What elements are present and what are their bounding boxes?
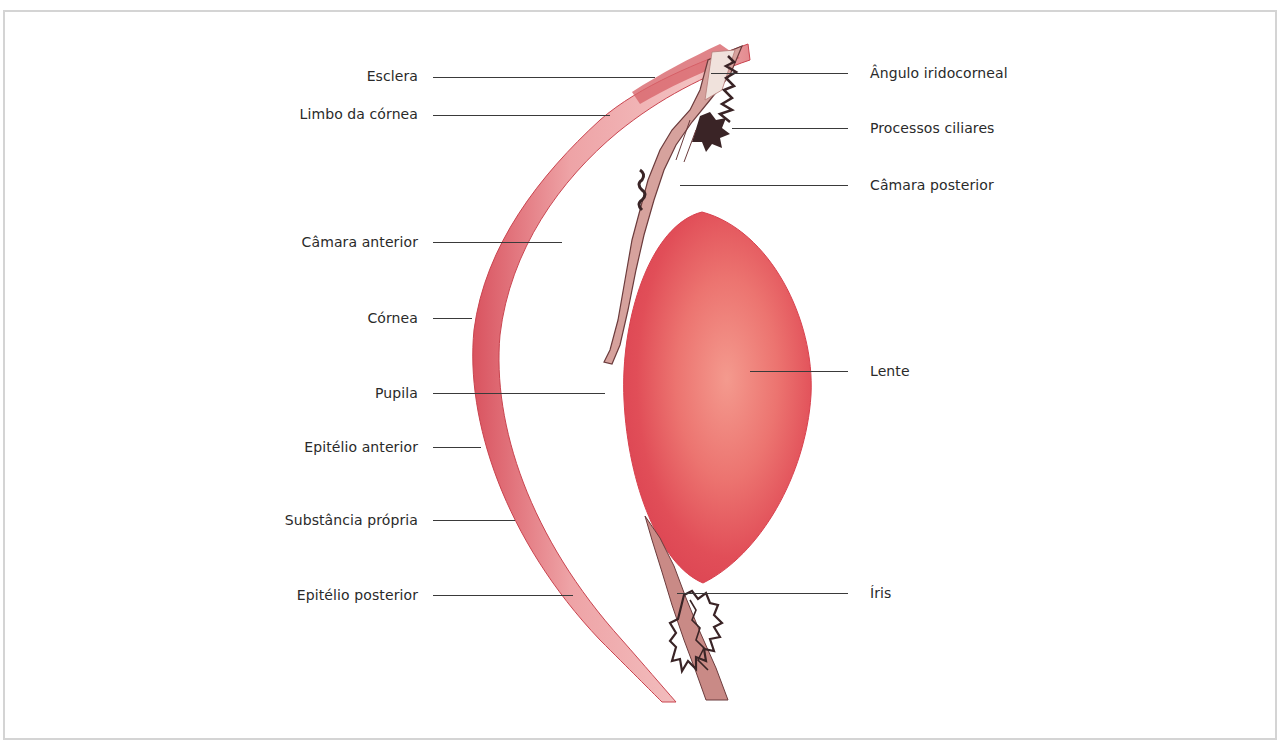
leader-iris: [677, 593, 848, 594]
leader-lente: [750, 371, 848, 372]
leader-epitelio-posterior: [433, 595, 573, 596]
leader-esclera: [433, 77, 655, 78]
label-substancia-propria: Substância própria: [168, 511, 418, 529]
label-pupila: Pupila: [168, 384, 418, 402]
label-camara-anterior: Câmara anterior: [168, 233, 418, 251]
leader-camara-anterior: [433, 242, 562, 243]
leader-limbo-da-cornea: [433, 115, 610, 116]
leader-substancia-propria: [433, 520, 515, 521]
leader-cornea: [433, 318, 472, 319]
label-esclera: Esclera: [168, 67, 418, 85]
label-iris: Íris: [870, 584, 891, 602]
leader-camara-posterior: [680, 185, 848, 186]
leader-processos-ciliares: [732, 128, 848, 129]
leader-pupila: [433, 393, 605, 394]
leader-angulo-iridocorneal: [711, 73, 848, 74]
label-lente: Lente: [870, 362, 910, 380]
label-epitelio-posterior: Epitélio posterior: [168, 586, 418, 604]
label-angulo-iridocorneal: Ângulo iridocorneal: [870, 64, 1008, 82]
label-epitelio-anterior: Epitélio anterior: [168, 438, 418, 456]
label-cornea: Córnea: [168, 309, 418, 327]
label-limbo-da-cornea: Limbo da córnea: [168, 105, 418, 123]
leader-epitelio-anterior: [433, 447, 481, 448]
label-processos-ciliares: Processos ciliares: [870, 119, 995, 137]
label-camara-posterior: Câmara posterior: [870, 176, 994, 194]
